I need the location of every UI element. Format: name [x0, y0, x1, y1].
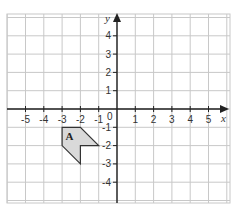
y-tick-label: -4: [102, 177, 111, 188]
x-tick-label: -5: [21, 114, 30, 125]
x-axis-label: x: [220, 112, 226, 124]
x-tick-label: 5: [206, 114, 212, 125]
x-tick-label: -2: [76, 114, 85, 125]
y-tick-label: 4: [105, 30, 111, 41]
y-tick-label: 2: [105, 67, 111, 78]
axes: x y 0: [7, 12, 229, 203]
shapes: A: [62, 127, 99, 164]
x-tick-label: -4: [39, 114, 48, 125]
shape-label: A: [65, 130, 73, 142]
x-tick-label: 3: [169, 114, 175, 125]
x-tick-label: -3: [58, 114, 67, 125]
y-tick-label: 1: [105, 85, 111, 96]
y-tick-label: -2: [102, 140, 111, 151]
coordinate-grid: A x y 0 -5-4-3-2-1123454321-1-2-3-4: [0, 0, 231, 212]
y-tick-label: -1: [102, 122, 111, 133]
x-tick-label: 2: [151, 114, 157, 125]
y-tick-label: -3: [102, 158, 111, 169]
x-tick-label: 1: [133, 114, 139, 125]
origin-label: 0: [107, 111, 113, 122]
x-tick-label: 4: [187, 114, 193, 125]
y-axis-label: y: [104, 12, 110, 24]
y-tick-label: 3: [105, 49, 111, 60]
